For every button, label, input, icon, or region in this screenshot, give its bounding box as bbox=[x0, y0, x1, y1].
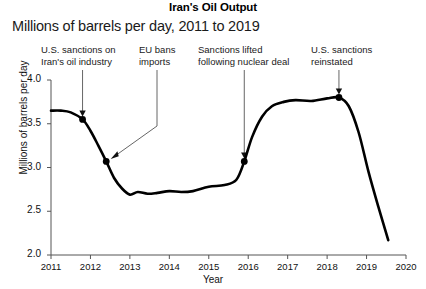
data-line-iran-oil-output bbox=[51, 97, 388, 240]
arrow-head-us-sanctions-reinstated bbox=[336, 89, 342, 95]
sanctions-marker-3 bbox=[241, 158, 248, 165]
leader-line-eu-bans-imports bbox=[117, 70, 157, 154]
data-point-markers bbox=[79, 94, 342, 165]
chart-container: Iran's Oil Output Millions of barrels pe… bbox=[0, 0, 426, 289]
sanctions-marker-1 bbox=[79, 116, 86, 123]
arrow-head-us-sanctions-oil-industry bbox=[79, 110, 85, 116]
annotation-leader-lines bbox=[79, 70, 342, 159]
axes bbox=[47, 80, 406, 259]
plot-area bbox=[0, 0, 426, 289]
sanctions-marker-2 bbox=[103, 158, 110, 165]
sanctions-marker-4 bbox=[336, 94, 343, 101]
arrow-head-eu-bans-imports bbox=[111, 151, 119, 159]
